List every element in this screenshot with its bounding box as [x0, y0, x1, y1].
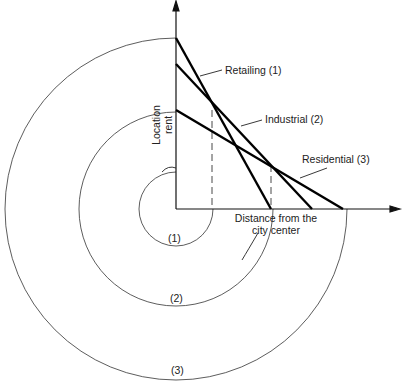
industrial-line [176, 64, 312, 209]
y-axis-label: Location rent [150, 100, 174, 150]
y-axis-label-line2: rent [162, 100, 174, 150]
leader-retailing [200, 70, 222, 76]
x-axis-arrow [390, 206, 400, 212]
leader-industrial [241, 120, 262, 126]
y-axis-arrow [173, 1, 179, 11]
residential-label: Residential (3) [302, 153, 370, 165]
x-axis-label-line1: Distance from the [226, 212, 326, 224]
x-axis-label-line2: city center [226, 224, 326, 236]
x-axis-label: Distance from the city center [226, 212, 326, 236]
leader-location-rent [162, 167, 176, 172]
diagram-graphics [0, 0, 408, 391]
y-axis-label-line1: Location [150, 100, 162, 150]
ring-2-label: (2) [170, 292, 183, 304]
leader-distance [242, 233, 258, 260]
ring-1-label: (1) [168, 232, 181, 244]
retailing-label: Retailing (1) [225, 64, 282, 76]
bid-rent-diagram: Retailing (1) Industrial (2) Residential… [0, 0, 408, 391]
leader-residential [300, 168, 327, 178]
ring-3-label: (3) [171, 364, 184, 376]
industrial-label: Industrial (2) [265, 113, 323, 125]
